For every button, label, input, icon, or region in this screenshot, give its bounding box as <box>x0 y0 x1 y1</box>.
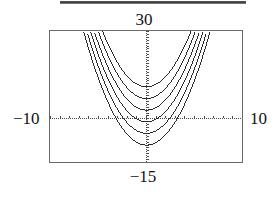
top-rule-divider <box>60 1 246 4</box>
figure-container: 30 −10 10 −15 <box>0 0 278 199</box>
y-axis-max-label: 30 <box>0 11 278 28</box>
x-axis-max-label: 10 <box>250 110 267 127</box>
parabola-family-plot <box>50 31 242 162</box>
plot-frame <box>49 30 243 163</box>
axes-layer <box>50 31 242 162</box>
y-axis-min-label: −15 <box>0 168 278 185</box>
x-axis-min-label: −10 <box>13 110 40 127</box>
curves-layer <box>83 31 210 146</box>
